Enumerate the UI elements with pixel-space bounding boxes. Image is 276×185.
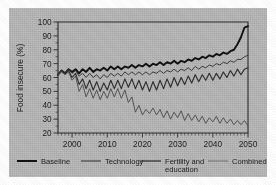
x-tick-label-2050: 2050 (239, 139, 258, 149)
food-insecurity-line-chart: Food insecure (%) 2030405060708090100 20… (0, 0, 276, 185)
y-tick-label-70: 70 (42, 60, 52, 69)
x-tick-label-2000: 2000 (63, 139, 82, 149)
x-axis-ticks: 200020102020203020402050 (58, 133, 258, 149)
series-line-baseline (58, 26, 248, 75)
legend-item-combined[interactable]: Combined (208, 157, 267, 166)
legend-item-fertility-and-education[interactable]: Fertility and education (141, 157, 204, 174)
legend-item-technology[interactable]: Technology (81, 157, 144, 166)
x-tick-label-2020: 2020 (133, 139, 152, 149)
y-axis-title-text: Food insecure (%) (15, 44, 25, 113)
x-tick-label-2030: 2030 (168, 139, 187, 149)
y-tick-label-80: 80 (42, 46, 52, 55)
y-tick-label-90: 90 (42, 32, 52, 41)
y-tick-label-30: 30 (42, 115, 52, 124)
legend-label-combined: Combined (232, 157, 267, 166)
legend-label-technology: Technology (105, 157, 144, 166)
legend-item-baseline[interactable]: Baseline (17, 157, 70, 166)
x-tick-label-2010: 2010 (98, 139, 117, 149)
y-tick-label-60: 60 (42, 74, 52, 83)
y-axis-title: Food insecure (%) (15, 44, 25, 113)
x-tick-label-2040: 2040 (203, 139, 222, 149)
y-tick-label-100: 100 (38, 18, 52, 27)
chart-plot-wrapper: Food insecure (%) 2030405060708090100 20… (0, 0, 276, 185)
legend-label-baseline: Baseline (41, 157, 70, 166)
chart-legend: Baseline Technology Fertility and educat… (17, 157, 267, 174)
y-tick-label-50: 50 (42, 87, 52, 96)
y-tick-label-20: 20 (42, 129, 52, 138)
y-tick-label-40: 40 (42, 101, 52, 110)
figure: Food insecure (%) 2030405060708090100 20… (0, 0, 276, 185)
y-axis-ticks: 2030405060708090100 (38, 18, 58, 138)
series-line-technology (58, 55, 248, 79)
legend-label-fertility-and-education-line2: education (165, 165, 198, 174)
series-line-combined (58, 72, 248, 126)
data-series-group (58, 26, 248, 126)
